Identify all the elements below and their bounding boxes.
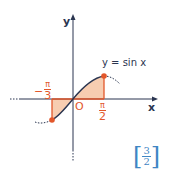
x-axis-label: x [148,101,155,114]
right-point [101,73,107,79]
shaded-region-positive [73,76,104,99]
y-axis-label: y [63,15,70,28]
origin-label: O [75,100,84,113]
left-bound-label: − π 3 [34,81,51,101]
curve-label: y = sin x [102,57,146,68]
left-point [49,117,55,123]
right-bound-label: π 2 [99,102,106,122]
answer-label: [ 3 2 ] [133,144,160,168]
y-axis-arrow-icon [71,14,76,20]
